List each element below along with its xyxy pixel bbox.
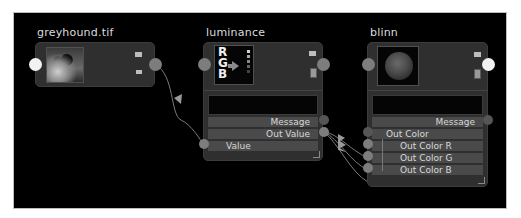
sphere-icon bbox=[385, 52, 413, 80]
attr-out-value[interactable]: Out Value bbox=[208, 129, 318, 139]
separator bbox=[368, 90, 487, 91]
attr-out-color[interactable]: Out Color bbox=[372, 129, 483, 139]
luminance-output-port[interactable] bbox=[317, 58, 330, 71]
luminance-out-value-port[interactable] bbox=[319, 127, 329, 137]
attr-message[interactable]: Message bbox=[208, 117, 318, 127]
blinn-output-port[interactable] bbox=[482, 58, 495, 71]
greyhound-input-port[interactable] bbox=[29, 58, 42, 71]
node-collapse-icon[interactable] bbox=[474, 69, 481, 79]
gradient-dots-icon bbox=[247, 50, 250, 75]
luminance-message-port[interactable] bbox=[319, 115, 329, 125]
luminance-input-port[interactable] bbox=[198, 58, 211, 71]
blinn-out-color-g-port[interactable] bbox=[363, 151, 373, 161]
luminance-name-field[interactable] bbox=[208, 95, 318, 115]
rgb-icon: R G B bbox=[218, 47, 228, 80]
greyhound-node-title: greyhound.tif bbox=[37, 26, 114, 39]
node-mode-icon[interactable] bbox=[135, 52, 142, 57]
blinn-node-title: blinn bbox=[370, 26, 398, 39]
luminance-node-title: luminance bbox=[206, 26, 265, 39]
node-mode-icon[interactable] bbox=[309, 51, 316, 56]
greyhound-node[interactable] bbox=[35, 42, 155, 87]
attr-out-color-b[interactable]: Out Color B bbox=[372, 165, 483, 175]
node-collapse-icon[interactable] bbox=[136, 70, 142, 74]
resize-handle[interactable] bbox=[313, 151, 320, 158]
blinn-out-color-port[interactable] bbox=[363, 127, 373, 137]
luminance-value-port[interactable] bbox=[199, 139, 209, 149]
attr-out-color-r[interactable]: Out Color R bbox=[372, 141, 483, 151]
greyhound-thumbnail bbox=[46, 47, 84, 83]
node-mode-icon[interactable] bbox=[474, 52, 481, 57]
luminance-swatch: R G B bbox=[214, 45, 254, 85]
blinn-input-port[interactable] bbox=[362, 58, 375, 71]
blinn-name-field[interactable] bbox=[372, 95, 483, 115]
compound-bracket bbox=[382, 139, 383, 171]
blinn-out-color-b-port[interactable] bbox=[363, 163, 373, 173]
attr-message[interactable]: Message bbox=[372, 117, 483, 127]
resize-handle[interactable] bbox=[478, 177, 485, 184]
node-collapse-icon[interactable] bbox=[310, 68, 317, 78]
blinn-node[interactable]: Message Out Color Out Color R Out Color … bbox=[367, 42, 488, 187]
greyhound-output-port[interactable] bbox=[149, 58, 162, 71]
greyhound-image-icon bbox=[47, 48, 83, 82]
blinn-out-color-r-port[interactable] bbox=[363, 139, 373, 149]
separator bbox=[204, 90, 322, 91]
blinn-swatch bbox=[377, 46, 419, 86]
luminance-node[interactable]: R G B Message Out Value Value bbox=[203, 42, 323, 161]
attr-out-color-g[interactable]: Out Color G bbox=[372, 153, 483, 163]
attr-value[interactable]: Value bbox=[208, 141, 318, 151]
blinn-message-port[interactable] bbox=[483, 115, 493, 125]
